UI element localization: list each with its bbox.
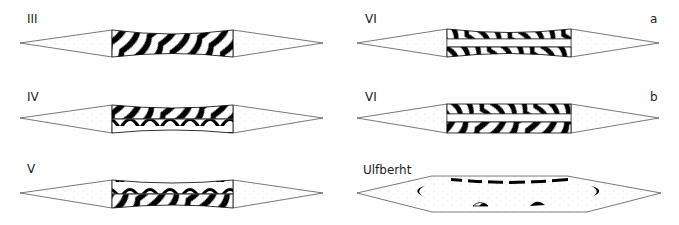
diagram-canvas [0,0,679,225]
cross-section-v [20,180,323,208]
cross-section-iii [20,30,323,57]
cross-section-vi-a [357,29,659,57]
cross-section-ulfberht [357,176,661,212]
cross-section-vi-b [357,104,659,133]
cross-section-iv [20,105,323,133]
